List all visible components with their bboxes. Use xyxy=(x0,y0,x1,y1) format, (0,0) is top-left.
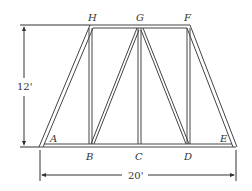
member-FD xyxy=(187,28,190,144)
node-label-d: D xyxy=(183,151,192,162)
member-HB xyxy=(89,28,92,144)
node-label-e: E xyxy=(219,133,228,144)
width-label: 20' xyxy=(128,170,143,181)
member-BG xyxy=(91,28,139,144)
node-label-f: F xyxy=(183,12,192,23)
truss-diagram: 12' 20' H G F A B C D E xyxy=(0,0,252,191)
member-AH xyxy=(39,25,93,147)
member-GC xyxy=(138,28,141,144)
node-label-a: A xyxy=(49,133,57,144)
node-label-b: B xyxy=(85,151,93,162)
bottom-chord xyxy=(40,144,236,147)
height-label: 12' xyxy=(17,81,32,92)
node-label-c: C xyxy=(135,151,143,162)
member-EF xyxy=(187,25,237,147)
node-label-g: G xyxy=(136,12,144,23)
member-GD xyxy=(141,28,189,144)
node-label-h: H xyxy=(87,12,97,23)
top-chord xyxy=(90,25,190,28)
